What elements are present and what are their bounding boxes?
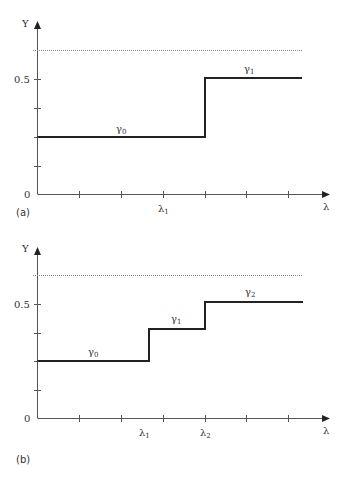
x-marker-lambda1-b: λ1 <box>139 427 150 440</box>
y-tick-label-zero-b: 0 <box>24 413 30 424</box>
panel-label-b: (b) <box>16 454 30 465</box>
y-axis-arrow-icon <box>34 247 41 255</box>
figure: Υ 0.5 0 γ0 γ1 λ1 λ (a) <box>0 0 346 477</box>
panel-b: Υ 0.5 0 γ0 γ1 γ2 λ1 λ2 λ (b) <box>14 243 330 465</box>
y-axis-label-a: Υ <box>21 18 29 29</box>
x-axis-arrow-icon <box>322 415 330 422</box>
panel-a: Υ 0.5 0 γ0 γ1 λ1 λ (a) <box>14 18 330 218</box>
y-tick-label-half-b: 0.5 <box>14 299 30 310</box>
x-marker-lambda1-a: λ1 <box>158 203 169 216</box>
step-function-b <box>38 302 304 361</box>
segment-label-g0-a: γ0 <box>116 123 126 136</box>
segment-label-g1-b: γ1 <box>171 313 181 326</box>
segment-label-g2-b: γ2 <box>245 286 255 299</box>
segment-label-g1-a: γ1 <box>244 63 254 76</box>
y-tick-label-half-a: 0.5 <box>14 74 30 85</box>
y-axis-label-b: Υ <box>21 243 29 254</box>
x-axis-label-b: λ <box>323 425 330 436</box>
segment-label-g0-b: γ0 <box>88 346 98 359</box>
y-axis-arrow-icon <box>34 21 41 29</box>
x-axis-arrow-icon <box>322 191 330 198</box>
x-marker-lambda2-b: λ2 <box>200 427 211 440</box>
step-function-a <box>38 78 303 137</box>
y-tick-label-zero-a: 0 <box>24 189 30 200</box>
x-axis-label-a: λ <box>323 201 330 212</box>
panel-label-a: (a) <box>16 207 30 218</box>
